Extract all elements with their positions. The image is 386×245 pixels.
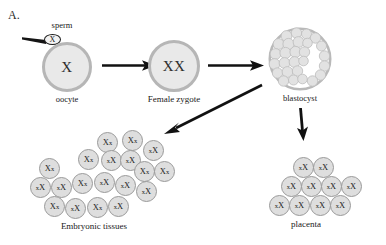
embryonic-cell: Xx [72, 173, 93, 194]
allele-glyph: x [90, 156, 93, 163]
embryonic-cell: Xx [122, 130, 143, 151]
cell-genotype: xX [307, 182, 316, 191]
embryonic-cell: xX [115, 175, 136, 196]
embryonic-cell: Xx [134, 161, 155, 182]
oocyte-label: oocyte [56, 94, 79, 104]
allele-glyph: X [129, 155, 135, 165]
allele-glyph: X [298, 200, 304, 210]
embryonic-cell: Xx [78, 149, 99, 170]
cell-genotype: xX [327, 182, 336, 191]
allele-glyph: X [145, 186, 151, 196]
embryonic-cell: xX [136, 181, 157, 202]
sperm-genotype: X [50, 36, 56, 44]
allele-glyph: x [56, 203, 59, 210]
allele-glyph: X [350, 181, 356, 191]
embryonic-cell: Xx [44, 196, 65, 217]
blastocyst-inner-cell [270, 49, 281, 60]
allele-glyph: X [124, 180, 130, 190]
allele-glyph: x [51, 165, 54, 172]
allele-glyph: X [302, 162, 308, 172]
cell-genotype: xX [299, 163, 308, 172]
cell-genotype: Xx [140, 167, 149, 176]
oocyte-cell: X [42, 42, 92, 92]
cell-genotype: xX [149, 146, 158, 155]
allele-glyph: X [152, 145, 158, 155]
blastocyst-inner-cell [317, 41, 327, 51]
allele-glyph: X [310, 181, 316, 191]
cell-genotype: Xx [45, 164, 54, 173]
blastocyst-inner-cell [273, 39, 284, 50]
allele-glyph: X [117, 201, 123, 211]
cell-genotype: xX [287, 182, 296, 191]
cell-genotype: Xx [93, 203, 102, 212]
allele-glyph: X [278, 200, 284, 210]
cell-genotype: xX [107, 156, 116, 165]
blastocyst-label: blastocyst [283, 93, 317, 103]
allele-glyph: X [330, 181, 336, 191]
cell-genotype: Xx [78, 179, 87, 188]
placenta-cell: xX [269, 195, 290, 216]
zygote-genotype: XX [163, 57, 186, 74]
placenta-cell: xX [281, 176, 302, 197]
embryonic-cell: Xx [154, 161, 175, 182]
cell-genotype: Xx [84, 155, 93, 164]
allele-glyph: X [322, 162, 328, 172]
placenta-cell: xX [289, 195, 310, 216]
blastocyst-inner-cell [307, 76, 317, 86]
embryonic-cell: Xx [87, 197, 108, 218]
panel-letter: A. [8, 8, 20, 23]
cell-genotype: xX [121, 181, 130, 190]
cell-genotype: xX [114, 202, 123, 211]
cell-genotype: xX [295, 201, 304, 210]
placenta-cell: xX [310, 195, 331, 216]
blastocyst-inner-cell [293, 37, 304, 48]
blastocyst-inner-cell [289, 75, 299, 85]
embryonic-cell: xX [143, 140, 164, 161]
cell-genotype: Xx [103, 138, 112, 147]
cell-genotype: xX [142, 187, 151, 196]
placenta-cell: xX [313, 157, 334, 178]
embryonic-cell: xX [101, 150, 122, 171]
sperm-label: sperm [52, 20, 73, 30]
cell-genotype: xX [100, 178, 109, 187]
placenta-cell: xX [321, 176, 342, 197]
allele-glyph: x [134, 137, 137, 144]
cell-genotype: xX [319, 163, 328, 172]
cell-genotype: xX [275, 201, 284, 210]
placenta-label: placenta [291, 219, 321, 229]
blastocyst-inner-cell [319, 51, 329, 61]
allele-glyph: x [109, 139, 112, 146]
blastocyst-inner-cell [299, 56, 309, 66]
embryonic-cell: xX [30, 177, 51, 198]
embryonic-cell: xX [94, 172, 115, 193]
arrow-zygote-to-blastocyst [208, 58, 266, 74]
allele-glyph: X [39, 182, 45, 192]
placenta-cell: xX [341, 176, 362, 197]
allele-glyph: X [60, 182, 66, 192]
blastocyst-inner-cell [298, 74, 308, 84]
allele-glyph: X [319, 200, 325, 210]
embryonic-cell: Xx [39, 158, 60, 179]
cell-genotype: xX [336, 201, 345, 210]
cell-genotype: xX [126, 156, 135, 165]
embryonic-cell: xX [51, 177, 72, 198]
cell-genotype: Xx [50, 202, 59, 211]
arrow-blastocyst-to-placenta [292, 108, 312, 144]
embryonic-cell: xX [108, 196, 129, 217]
embryonic-cell: xX [65, 198, 86, 219]
blastocyst-inner-cell [280, 47, 291, 58]
cell-genotype: xX [71, 204, 80, 213]
allele-glyph: x [84, 180, 87, 187]
embryonic-tissues-label: Embryonic tissues [61, 221, 127, 231]
arrow-blastocyst-to-embryonic [150, 82, 268, 140]
allele-glyph: X [290, 181, 296, 191]
allele-glyph: X [110, 155, 116, 165]
blastocyst-svg [268, 27, 332, 91]
blastocyst-inner-cell [299, 47, 309, 57]
cell-genotype: xX [316, 201, 325, 210]
cell-genotype: xX [36, 183, 45, 192]
allele-glyph: x [146, 168, 149, 175]
blastocyst-inner-cell [278, 76, 288, 86]
placenta-cell: xX [301, 176, 322, 197]
placenta-cell: xX [330, 195, 351, 216]
